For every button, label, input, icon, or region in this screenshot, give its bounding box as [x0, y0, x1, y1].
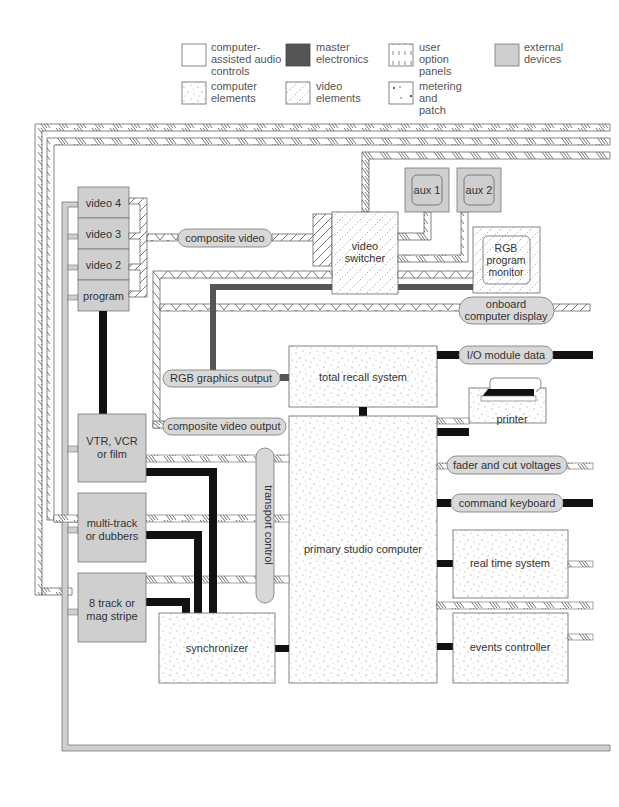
printer-data-link	[437, 428, 469, 436]
video4-label: video 4	[86, 197, 121, 209]
program-to-vtr-line	[99, 311, 107, 414]
swatch-vertical-dash	[389, 44, 413, 66]
command-keyboard-pill[interactable]: command keyboard	[451, 494, 563, 512]
svg-text:computer display: computer display	[464, 310, 548, 322]
legend-item-user-option-panels: user option panels	[389, 41, 452, 77]
svg-text:computer-: computer-	[211, 41, 261, 53]
aux-connectors	[398, 212, 468, 262]
composite-video-output-pill[interactable]: composite video output	[163, 418, 286, 435]
svg-text:aux 2: aux 2	[466, 184, 493, 196]
svg-text:external: external	[524, 41, 563, 53]
rgb-graphics-output-pill[interactable]: RGB graphics output	[163, 370, 280, 387]
printer-hatch-link	[437, 418, 469, 424]
transport-control-pill[interactable]: transport control	[256, 448, 275, 603]
synchronizer[interactable]: synchronizer	[159, 613, 275, 683]
svg-text:VTR, VCR: VTR, VCR	[86, 435, 137, 447]
rgb-graphics-link	[280, 374, 290, 381]
real-time-system[interactable]: real time system	[453, 530, 568, 598]
fader-cut-voltages-pill[interactable]: fader and cut voltages	[447, 456, 567, 474]
swatch-dots	[182, 82, 206, 104]
legend-item-video-elements: video elements	[286, 80, 361, 104]
vtr-vcr-film[interactable]: VTR, VCR or film	[78, 414, 146, 482]
svg-text:or film: or film	[97, 448, 127, 460]
video2-label: video 2	[86, 259, 121, 271]
swatch-diag-dots	[286, 82, 310, 104]
svg-text:RGB graphics output: RGB graphics output	[170, 372, 272, 384]
events-link	[437, 643, 453, 650]
svg-text:composite video output: composite video output	[167, 420, 280, 432]
legend-item-metering-and-patch: metering and patch	[389, 80, 462, 116]
svg-text:video: video	[352, 240, 378, 252]
legend-item-external-devices: external devices	[495, 41, 563, 66]
svg-text:or dubbers: or dubbers	[86, 530, 139, 542]
onboard-computer-display-pill[interactable]: onboard computer display	[459, 297, 554, 324]
svg-text:fader and cut voltages: fader and cut voltages	[453, 459, 562, 471]
svg-text:synchronizer: synchronizer	[186, 642, 249, 654]
realtime-out-hatch	[568, 561, 593, 567]
printer[interactable]: printer	[469, 378, 546, 425]
svg-text:command keyboard: command keyboard	[459, 497, 556, 509]
svg-text:panels: panels	[419, 65, 452, 77]
svg-text:switcher: switcher	[345, 252, 386, 264]
svg-text:patch: patch	[419, 104, 446, 116]
swatch-dark	[286, 44, 310, 66]
io-module-data-pill[interactable]: I/O module data	[459, 346, 553, 364]
video3-label: video 3	[86, 228, 121, 240]
svg-text:user: user	[419, 41, 441, 53]
rgb-program-monitor[interactable]: RGB program monitor	[473, 227, 540, 293]
svg-text:total recall system: total recall system	[319, 371, 407, 383]
svg-text:monitor: monitor	[488, 266, 524, 278]
legend: computer- assisted audio controls master…	[182, 41, 563, 116]
swatch-gray	[495, 44, 519, 66]
aux1-device[interactable]: aux 1	[405, 168, 449, 212]
events-controller[interactable]: events controller	[453, 613, 568, 683]
multitrack-dubbers[interactable]: multi-track or dubbers	[78, 493, 146, 562]
studio-system-diagram: computer- assisted audio controls master…	[0, 0, 619, 807]
svg-text:metering: metering	[419, 80, 462, 92]
svg-text:master: master	[316, 41, 350, 53]
events-out-hatch	[568, 634, 593, 640]
svg-text:elements: elements	[211, 92, 256, 104]
svg-text:composite video: composite video	[185, 232, 265, 244]
svg-text:printer: printer	[496, 413, 528, 425]
svg-text:real time system: real time system	[470, 557, 550, 569]
eight-track-mag-stripe[interactable]: 8 track or mag stripe	[78, 573, 146, 642]
composite-video-pill[interactable]: composite video	[178, 229, 272, 247]
svg-text:computer: computer	[211, 80, 257, 92]
realtime-link	[437, 560, 453, 567]
svg-text:mag stripe: mag stripe	[86, 610, 137, 622]
swatch-sparse-dots	[389, 82, 413, 104]
total-recall-system[interactable]: total recall system	[289, 346, 437, 407]
svg-text:elements: elements	[316, 92, 361, 104]
svg-text:events controller: events controller	[470, 641, 551, 653]
svg-text:and: and	[419, 92, 437, 104]
svg-text:onboard: onboard	[486, 298, 526, 310]
svg-text:option: option	[419, 53, 449, 65]
svg-text:aux 1: aux 1	[414, 184, 441, 196]
legend-item-computer-elements: computer elements	[182, 80, 257, 104]
program-label: program	[83, 290, 124, 302]
video-switcher[interactable]: video switcher	[332, 212, 398, 294]
svg-text:RGB: RGB	[495, 242, 518, 254]
svg-text:multi-track: multi-track	[87, 517, 138, 529]
recall-to-computer-link	[359, 407, 367, 416]
primary-studio-computer[interactable]: primary studio computer	[289, 416, 437, 683]
legend-item-master-electronics: master electronics	[286, 41, 369, 66]
svg-text:transport control: transport control	[263, 485, 275, 564]
swatch-plain	[182, 44, 206, 66]
svg-text:8 track or: 8 track or	[89, 597, 135, 609]
svg-text:video: video	[316, 80, 342, 92]
switcher-input-fan	[313, 214, 332, 266]
svg-text:assisted audio: assisted audio	[211, 53, 281, 65]
svg-text:I/O module data: I/O module data	[467, 349, 546, 361]
svg-text:primary studio computer: primary studio computer	[304, 543, 422, 555]
video-source-stack: video 4 video 3 video 2 program	[78, 187, 129, 311]
svg-text:electronics: electronics	[316, 53, 369, 65]
computer-right-bus	[437, 602, 593, 609]
aux2-device[interactable]: aux 2	[457, 168, 501, 212]
svg-text:devices: devices	[524, 53, 562, 65]
svg-text:controls: controls	[211, 65, 250, 77]
svg-text:program: program	[486, 254, 525, 266]
legend-item-computer-assisted-audio-controls: computer- assisted audio controls	[182, 41, 281, 77]
